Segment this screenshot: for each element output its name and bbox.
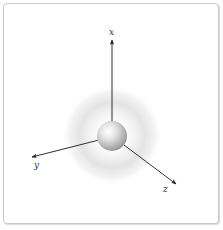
coordinate-diagram: x y z	[0, 0, 223, 230]
central-sphere	[97, 121, 127, 151]
x-axis-label: x	[109, 27, 114, 37]
y-axis-label: y	[33, 160, 40, 170]
z-axis-label: z	[162, 184, 168, 194]
